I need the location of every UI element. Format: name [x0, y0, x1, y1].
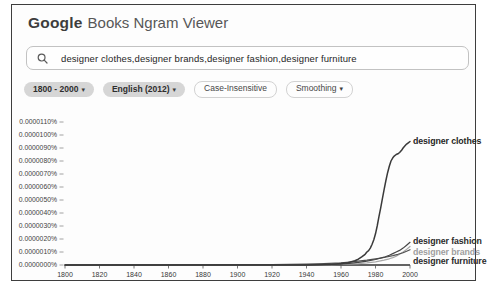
- filter-chip-label: English (2012): [112, 84, 170, 94]
- google-logo: Google: [28, 14, 83, 31]
- x-tick-label: 1840: [126, 271, 142, 278]
- app-title: GoogleBooks Ngram Viewer: [28, 14, 228, 32]
- filter-chip-label: 1800 - 2000: [33, 84, 78, 94]
- filter-chip-case-insensitive[interactable]: Case-Insensitive: [194, 81, 277, 98]
- y-tick-label: 0.0000010%: [19, 248, 57, 255]
- series-label-designer-furniture: designer furniture: [413, 256, 487, 266]
- filter-chip-corpus[interactable]: English (2012)▾: [103, 82, 185, 97]
- series-label-designer-clothes: designer clothes: [413, 136, 482, 146]
- x-tick-label: 1800: [57, 271, 73, 278]
- y-tick-label: 0.0000090%: [19, 144, 57, 151]
- filter-chip-smoothing[interactable]: Smoothing▾: [286, 81, 353, 98]
- x-tick-label: 1820: [92, 271, 108, 278]
- ngram-chart: 0.0000110%0.0000100%0.0000090%0.0000080%…: [12, 112, 477, 282]
- x-tick-label: 1960: [333, 271, 349, 278]
- ngram-viewer-page: GoogleBooks Ngram Viewer designer clothe…: [0, 0, 490, 295]
- y-tick-label: 0.0000100%: [19, 131, 57, 138]
- y-tick-label: 0.0000020%: [19, 235, 57, 242]
- y-tick-label: 0.0000000%: [19, 261, 57, 268]
- chevron-down-icon: ▾: [173, 86, 177, 93]
- series-label-designer-fashion: designer fashion: [413, 236, 482, 246]
- chevron-down-icon: ▾: [340, 85, 344, 92]
- x-tick-label: 1900: [230, 271, 246, 278]
- series-line-designer-clothes: [65, 142, 410, 266]
- x-tick-label: 1940: [299, 271, 315, 278]
- x-tick-label: 2000: [402, 271, 418, 278]
- y-tick-label: 0.0000030%: [19, 222, 57, 229]
- chevron-down-icon: ▾: [81, 86, 85, 93]
- filter-chip-label: Case-Insensitive: [204, 83, 267, 93]
- filter-chip-year-range[interactable]: 1800 - 2000▾: [24, 82, 94, 97]
- y-tick-label: 0.0000050%: [19, 196, 57, 203]
- x-tick-label: 1920: [264, 271, 280, 278]
- x-tick-label: 1880: [195, 271, 211, 278]
- search-input[interactable]: designer clothes,designer brands,designe…: [61, 53, 357, 64]
- ngram-chart-svg: 0.0000110%0.0000100%0.0000090%0.0000080%…: [12, 112, 477, 282]
- x-tick-label: 1980: [368, 271, 384, 278]
- filter-bar: 1800 - 2000▾ English (2012)▾ Case-Insens…: [24, 81, 353, 98]
- y-tick-label: 0.0000110%: [19, 118, 57, 125]
- y-tick-label: 0.0000060%: [19, 183, 57, 190]
- y-tick-label: 0.0000080%: [19, 157, 57, 164]
- x-tick-label: 1860: [161, 271, 177, 278]
- search-box[interactable]: designer clothes,designer brands,designe…: [26, 46, 469, 70]
- y-tick-label: 0.0000070%: [19, 170, 57, 177]
- product-name: Books Ngram Viewer: [88, 14, 229, 31]
- search-icon: [37, 53, 48, 64]
- filter-chip-label: Smoothing: [296, 83, 337, 93]
- y-tick-label: 0.0000040%: [19, 209, 57, 216]
